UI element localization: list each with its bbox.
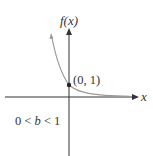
y-axis-label: f(x) <box>60 13 78 29</box>
condition-left: 0 < <box>15 114 35 128</box>
curve-arrow-icon <box>50 33 54 39</box>
x-axis-label: x <box>141 89 147 105</box>
base-condition-label: 0 < b < 1 <box>15 114 60 129</box>
x-axis-arrow-icon <box>132 94 139 100</box>
condition-right: < 1 <box>41 114 61 128</box>
intercept-label: (0, 1) <box>73 73 100 88</box>
intercept-point <box>67 83 71 87</box>
y-axis-arrow-icon <box>66 28 72 35</box>
